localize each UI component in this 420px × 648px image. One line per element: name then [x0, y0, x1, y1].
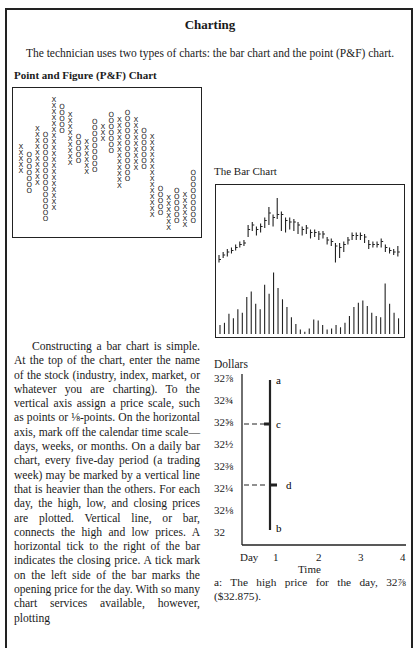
y-label: 32⅞ [214, 372, 233, 384]
pf-column: O O O O O O O O O [92, 119, 98, 173]
pf-column: X X X X X X X X X [67, 112, 73, 166]
y-axis-title: Dollars [214, 358, 248, 370]
pf-column: X X X [100, 124, 106, 142]
x-label: 3 [358, 551, 364, 563]
pf-column: X X X X X X X X X X X X [116, 117, 122, 189]
pf-column: O O O O O [75, 134, 81, 164]
point-b-label: b [276, 522, 282, 534]
bar-chart-heading: The Bar Chart [214, 165, 277, 177]
pf-column: X X X X X X [166, 195, 172, 231]
pf-column: X X X X X X X X X [133, 117, 139, 171]
x-label: 2 [316, 551, 322, 563]
y-label: 32 [214, 526, 225, 538]
x-axis-title: Time [298, 563, 321, 575]
y-label: 32⅜ [214, 460, 233, 472]
pf-column: O O O O O [59, 104, 65, 134]
pf-column: O O O O O O O O O O O O O O O [43, 132, 49, 222]
body-column: Constructing a bar chart is simple. At t… [14, 340, 200, 626]
pf-column: X X X X X [18, 144, 24, 174]
pf-column: O O O O O O [174, 188, 180, 224]
ohlc-diagram: a c d b [240, 372, 410, 552]
pf-column: X X X X X X X X X X [34, 126, 40, 186]
pf-column: X X X X X X [182, 192, 188, 228]
pf-column: X X X X X X X X X X X X X X [149, 134, 155, 218]
x-label: Day [240, 551, 258, 563]
pf-column: X X X X X X X X X X X X X X X X X X X [51, 97, 57, 211]
pf-column: O O O O O O O [141, 128, 147, 170]
page-title: Charting [0, 17, 420, 33]
pf-column: O O O O O [157, 186, 163, 216]
bar-chart [215, 184, 405, 338]
pf-chart-heading: Point and Figure (P&F) Chart [14, 69, 157, 81]
pf-column: O O O O O O O [26, 152, 32, 194]
pf-chart: X X X X XO O O O O O OX X X X X X X X X … [12, 87, 202, 238]
y-label: 32⅝ [214, 416, 233, 428]
y-label: 32¾ [214, 394, 233, 406]
x-label: 4 [400, 551, 406, 563]
pf-column: X X X X X X [84, 139, 90, 175]
point-d-label: d [286, 479, 292, 491]
body-paragraph: Constructing a bar chart is simple. At t… [14, 340, 200, 626]
y-label: 32⅛ [214, 504, 233, 516]
pf-column: O O O O O O O O O [190, 170, 196, 224]
pf-column: O O O O O O O [108, 112, 114, 154]
y-label: 32½ [214, 438, 233, 450]
point-c-label: c [276, 418, 281, 430]
x-label: 1 [273, 551, 279, 563]
intro-text: The technician uses two types of charts:… [0, 47, 420, 59]
pf-column: O O O O O O O O O O O O [125, 110, 131, 182]
bar-chart-plot [216, 185, 403, 336]
caption-a: a: The high price for the day, 32⅞ ($32.… [214, 575, 406, 603]
y-label: 32¼ [214, 482, 233, 494]
point-a-label: a [276, 374, 281, 386]
